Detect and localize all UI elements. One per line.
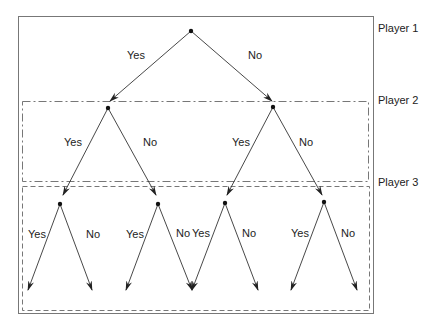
edge-n5-leaf4 (158, 204, 192, 290)
edge-labels-layer: YesNoYesNoYesNoYesNoYesNoYesNoYesNo (28, 49, 355, 240)
decision-node-n1 (189, 29, 193, 33)
edge-n4-leaf1 (28, 204, 60, 290)
edge-label-yes: Yes (28, 228, 46, 240)
edge-label-yes: Yes (232, 136, 250, 148)
player-2-label: Player 2 (378, 94, 418, 106)
edge-n4-leaf2 (60, 204, 92, 290)
decision-node-n5 (156, 202, 160, 206)
edge-label-no: No (176, 227, 190, 239)
edge-n1-n2 (110, 31, 191, 101)
edge-n5-leaf3 (126, 204, 158, 290)
player-3-label: Player 3 (378, 176, 418, 188)
decision-node-n3 (271, 105, 275, 109)
player-3-region (23, 187, 370, 311)
decision-node-n6 (223, 201, 227, 205)
edge-label-no: No (341, 227, 355, 239)
outer-frame (19, 17, 374, 314)
edge-label-no: No (248, 49, 262, 61)
decision-node-n7 (322, 200, 326, 204)
edge-n7-leaf7 (291, 202, 324, 290)
edge-label-yes: Yes (291, 227, 309, 239)
edge-label-yes: Yes (192, 227, 210, 239)
edge-label-yes: Yes (127, 49, 145, 61)
nodes-layer (58, 29, 326, 206)
edge-n1-n3 (191, 31, 272, 101)
edge-n6-leaf6 (225, 203, 258, 290)
player-1-label: Player 1 (378, 22, 418, 34)
decision-node-n4 (58, 202, 62, 206)
edge-n6-leaf5 (192, 203, 225, 290)
edge-label-no: No (242, 227, 256, 239)
edge-label-no: No (143, 136, 157, 148)
edge-label-no: No (86, 228, 100, 240)
edge-label-yes: Yes (64, 136, 82, 148)
edge-label-no: No (299, 136, 313, 148)
edge-n7-leaf8 (324, 202, 357, 290)
game-tree-diagram: Player 1 Player 2 Player 3 YesNoYesNoYes… (0, 0, 431, 330)
edges-layer (28, 31, 357, 290)
decision-node-n2 (106, 106, 110, 110)
edge-label-yes: Yes (126, 228, 144, 240)
